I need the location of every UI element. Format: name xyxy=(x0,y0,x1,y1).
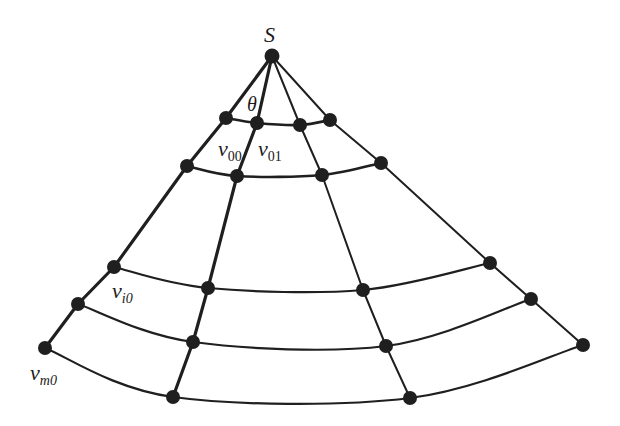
ring-arc-4 xyxy=(45,345,583,404)
node-label-vi0: vi0 xyxy=(112,280,133,306)
mesh-node-0-1 xyxy=(180,159,194,173)
mesh-node-0-2 xyxy=(107,260,121,274)
ring-arc-2 xyxy=(114,263,490,292)
mesh-node-1-3 xyxy=(186,335,200,349)
mesh-node-3-3 xyxy=(524,292,538,306)
vm0-base: v xyxy=(30,360,40,385)
sector-mesh-graphic xyxy=(0,0,620,426)
ring-arc-0 xyxy=(226,118,330,125)
mesh-node-1-1 xyxy=(230,169,244,183)
v01-base: v xyxy=(258,136,268,161)
mesh-node-0-4 xyxy=(38,341,52,355)
mesh-node-3-4 xyxy=(576,338,590,352)
angle-theta-label: θ xyxy=(247,94,257,114)
v01-sub: 01 xyxy=(268,149,282,164)
diagram-canvas: S θ v00 v01 vi0 vm0 xyxy=(0,0,620,426)
mesh-node-3-1 xyxy=(374,156,388,170)
mesh-node-2-1 xyxy=(315,168,329,182)
node-label-v01: v01 xyxy=(258,138,282,164)
apex-label: S xyxy=(264,24,275,46)
mesh-node-1-0 xyxy=(250,116,264,130)
mesh-node-2-0 xyxy=(293,118,307,132)
mesh-node-3-0 xyxy=(323,113,337,127)
mesh-node-1-2 xyxy=(201,281,215,295)
mesh-node-2-2 xyxy=(356,283,370,297)
ring-arc-3 xyxy=(78,299,531,350)
mesh-node-0-0 xyxy=(219,111,233,125)
mesh-node-2-4 xyxy=(403,391,417,405)
v00-base: v xyxy=(218,136,228,161)
ring-arc-1 xyxy=(187,163,381,177)
v00-sub: 00 xyxy=(228,149,242,164)
theta-text: θ xyxy=(247,93,257,115)
mesh-node-3-2 xyxy=(483,256,497,270)
vi0-base: v xyxy=(112,278,122,303)
vm0-sub: m0 xyxy=(40,373,57,388)
mesh-node-2-3 xyxy=(379,339,393,353)
node-label-vm0: vm0 xyxy=(30,362,57,388)
apex-label-text: S xyxy=(264,22,275,47)
mesh-node-0-3 xyxy=(71,297,85,311)
node-label-v00: v00 xyxy=(218,138,242,164)
mesh-node-1-4 xyxy=(166,390,180,404)
vi0-sub: i0 xyxy=(122,291,133,306)
apex-node-s xyxy=(265,49,280,64)
